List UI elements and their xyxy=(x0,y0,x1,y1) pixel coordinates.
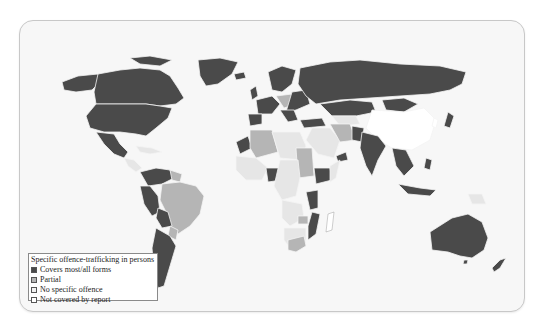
region-australia xyxy=(430,214,488,258)
legend-label-none: No specific offence xyxy=(40,285,103,295)
region-central-africa xyxy=(274,160,300,200)
region-central-america xyxy=(124,158,142,172)
legend-swatch-none xyxy=(31,287,37,293)
region-canada xyxy=(94,68,184,106)
region-turkey xyxy=(300,118,326,128)
region-caribbean xyxy=(136,146,162,154)
region-tasmania xyxy=(463,260,468,264)
region-canada-islands xyxy=(130,56,172,66)
region-uk xyxy=(250,86,258,100)
region-western-europe xyxy=(256,96,280,114)
legend-title: Specific offence-trafficking in persons xyxy=(31,255,155,265)
region-mexico xyxy=(96,132,128,158)
region-russia xyxy=(298,60,466,104)
legend-item-not-covered: Not covered by report xyxy=(31,295,155,305)
legend-label-not-covered: Not covered by report xyxy=(40,295,110,305)
legend-item-covers: Covers most/all forms xyxy=(31,265,155,275)
legend-item-none: No specific offence xyxy=(31,285,155,295)
region-yemen xyxy=(336,152,348,162)
legend-label-covers: Covers most/all forms xyxy=(40,265,111,275)
legend-label-partial: Partial xyxy=(40,275,61,285)
legend-item-partial: Partial xyxy=(31,275,155,285)
region-indonesia xyxy=(398,184,436,196)
region-new-zealand xyxy=(492,258,506,272)
region-iceland xyxy=(234,72,246,80)
legend-swatch-partial xyxy=(31,277,37,283)
region-greenland xyxy=(198,58,238,86)
region-philippines xyxy=(424,158,432,170)
region-iberia xyxy=(248,114,262,126)
region-zambia xyxy=(298,216,308,224)
region-guianas xyxy=(170,170,182,182)
region-ethiopia xyxy=(314,168,332,184)
region-madagascar xyxy=(326,212,334,232)
map-legend: Specific offence-trafficking in persons … xyxy=(28,253,158,301)
region-somalia xyxy=(330,160,340,182)
legend-swatch-not-covered xyxy=(31,297,37,303)
region-mozambique xyxy=(308,212,320,240)
region-usa xyxy=(86,104,172,136)
region-png xyxy=(468,194,486,204)
region-west-africa xyxy=(236,156,268,180)
region-east-africa xyxy=(306,190,318,210)
region-southeast-asia xyxy=(392,148,414,176)
region-balkans xyxy=(280,110,298,122)
region-kazakhstan xyxy=(320,100,376,116)
region-japan xyxy=(444,112,454,128)
legend-swatch-covers xyxy=(31,267,37,273)
region-scandinavia xyxy=(268,66,296,92)
